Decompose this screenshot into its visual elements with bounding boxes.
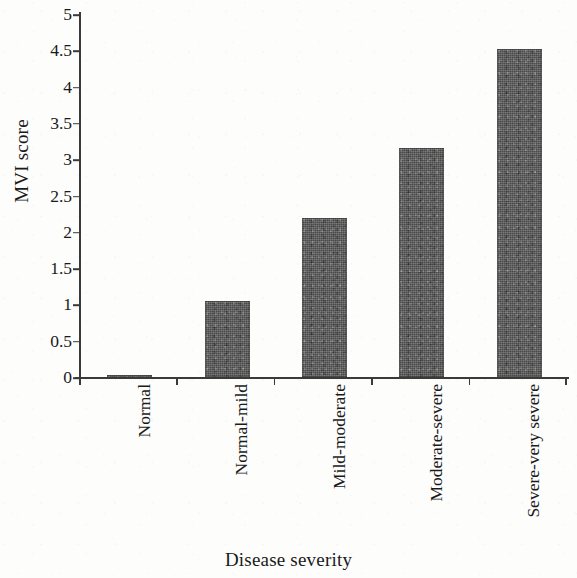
y-axis-tick-label: 1 — [28, 297, 72, 315]
y-axis-tick-label: 3 — [28, 151, 72, 169]
y-axis-tick — [73, 51, 80, 53]
x-axis-tick-label: Mild-moderate — [331, 384, 349, 489]
x-axis-title: Disease severity — [0, 549, 577, 571]
y-axis-tick — [73, 123, 80, 125]
y-axis-tick-label: 4.5 — [28, 43, 72, 61]
x-axis-tick-label: Severe-very severe — [525, 384, 543, 518]
x-axis-tick-label: Normal — [136, 384, 154, 437]
y-axis-tick-label: 4 — [28, 79, 72, 97]
bar — [302, 218, 347, 377]
y-axis-tick — [73, 268, 80, 270]
bar — [205, 301, 250, 377]
x-axis-line — [75, 377, 569, 379]
bar — [107, 375, 152, 378]
y-axis-tick-label: 5 — [28, 6, 72, 24]
y-axis-tick — [73, 196, 80, 198]
y-axis-tick — [73, 305, 80, 307]
bar-chart-figure: MVI score 54.543.532.521.510.50 NormalNo… — [0, 0, 577, 578]
y-axis-tick-label: 3.5 — [28, 115, 72, 133]
y-axis-tick-labels: 54.543.532.521.510.50 — [20, 0, 72, 578]
bar — [497, 49, 542, 377]
x-axis-tick-label: Moderate-severe — [428, 384, 446, 502]
y-axis-tick-label: 0 — [28, 369, 72, 387]
y-axis-tick-label: 1.5 — [28, 260, 72, 278]
y-axis-tick — [73, 232, 80, 234]
y-axis-tick — [73, 159, 80, 161]
y-axis-tick — [73, 341, 80, 343]
y-axis-tick-label: 2.5 — [28, 188, 72, 206]
y-axis-tick — [73, 87, 80, 89]
x-axis-tick-labels: NormalNormal-mildMild-moderateModerate-s… — [79, 384, 566, 534]
plot-area — [79, 15, 566, 378]
y-axis-tick-label: 2 — [28, 224, 72, 242]
bar — [399, 148, 444, 377]
y-axis-tick — [73, 14, 80, 16]
x-axis-tick-label: Normal-mild — [233, 384, 251, 475]
y-axis-tick-label: 0.5 — [28, 333, 72, 351]
